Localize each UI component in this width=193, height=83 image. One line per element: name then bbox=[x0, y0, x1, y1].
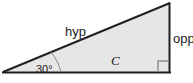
interior-label-c: C bbox=[111, 54, 120, 67]
opposite-side-label: opp bbox=[173, 32, 193, 45]
angle-measure-label: 30° bbox=[36, 64, 53, 75]
triangle-diagram: hyp opp C 30° bbox=[0, 0, 193, 83]
hypotenuse-label: hyp bbox=[65, 25, 86, 38]
triangle-figure bbox=[0, 0, 193, 83]
